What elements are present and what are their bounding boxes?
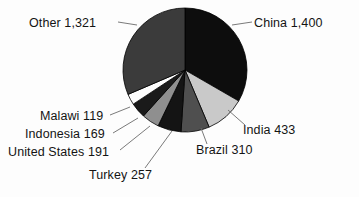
leader-line-turkey <box>145 131 172 168</box>
pie-chart-figure: Other 1,321 China 1,400 India 433 Brazil… <box>0 0 359 197</box>
pie-label-china: China 1,400 <box>254 17 323 30</box>
pie-label-other: Other 1,321 <box>29 17 96 30</box>
pie-label-brazil: Brazil 310 <box>196 144 253 157</box>
pie-label-united-states: United States 191 <box>8 146 109 159</box>
leader-line-brazil <box>201 128 207 144</box>
leader-line-united-states <box>120 126 150 150</box>
pie-label-malawi: Malawi 119 <box>40 110 103 123</box>
pie-label-turkey: Turkey 257 <box>89 169 152 182</box>
leader-line-malawi <box>110 107 130 115</box>
pie-label-india: India 433 <box>243 124 295 137</box>
leader-line-other <box>118 22 137 25</box>
pie-label-indonesia: Indonesia 169 <box>25 128 105 141</box>
leader-line-china <box>232 22 252 25</box>
pie-slice-layer <box>123 8 247 132</box>
leader-line-indonesia <box>113 118 138 133</box>
